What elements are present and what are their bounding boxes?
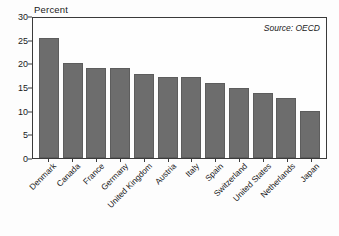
bar-united-kingdom	[134, 74, 154, 158]
y-tick-label-25: 25	[18, 36, 28, 46]
x-tick-label-denmark: Denmark	[27, 161, 58, 192]
bar-series	[33, 18, 326, 158]
y-axis-title: Percent	[34, 4, 68, 15]
bar-netherlands	[276, 98, 296, 158]
bar-spain	[205, 83, 225, 158]
bar-slot	[61, 18, 85, 158]
bar-slot	[132, 18, 156, 158]
y-tick-label-30: 30	[18, 12, 28, 22]
bar-slot	[85, 18, 109, 158]
y-axis-tick-labels: 051015202530	[0, 17, 32, 159]
bar-slot	[275, 18, 299, 158]
x-tick-label-austria: Austria	[152, 161, 177, 186]
x-axis-tick-labels: DenmarkCanadaFranceGermanyUnited Kingdom…	[32, 161, 327, 231]
bar-slot	[298, 18, 322, 158]
y-tick-label-15: 15	[18, 83, 28, 93]
x-tick-label-canada: Canada	[54, 161, 82, 189]
bar-italy	[181, 77, 201, 158]
plot-area: Source: OECD	[32, 17, 327, 159]
bar-austria	[158, 77, 178, 158]
bar-slot	[37, 18, 61, 158]
bar-slot	[227, 18, 251, 158]
y-tick-label-10: 10	[18, 107, 28, 117]
bar-slot	[203, 18, 227, 158]
bar-switzerland	[229, 88, 249, 158]
y-tick-label-20: 20	[18, 59, 28, 69]
bar-canada	[63, 63, 83, 158]
x-tick-label-japan: Japan	[298, 161, 321, 184]
chart-figure: Percent 051015202530 Source: OECD Denmar…	[0, 0, 339, 236]
bar-slot	[180, 18, 204, 158]
bar-france	[86, 68, 106, 158]
bar-united-states	[253, 93, 273, 158]
bar-slot	[108, 18, 132, 158]
bar-slot	[251, 18, 275, 158]
x-tick-label-italy: Italy	[184, 161, 202, 179]
bar-japan	[300, 111, 320, 158]
bar-denmark	[39, 38, 59, 158]
bar-slot	[156, 18, 180, 158]
bar-germany	[110, 68, 130, 158]
